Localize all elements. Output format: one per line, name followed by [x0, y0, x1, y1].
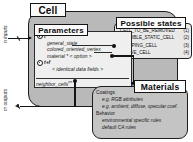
materials-section-heading: Behavior — [95, 110, 187, 117]
neighbor-cells-superscript: nn — [68, 80, 72, 84]
neighbor-cells-connector-horizontal — [20, 106, 75, 108]
cell-title-tab: Cell — [30, 3, 66, 17]
state-index: (4) — [180, 49, 189, 56]
cell-uml-diagram: CELL_TO_BE_REMOVED (1) INVISIBLE_STATIC_… — [0, 0, 193, 142]
input-label: n inputs — [2, 25, 8, 43]
input-connector-arrowhead — [28, 36, 32, 40]
parameter-group-header: t+f — [36, 59, 131, 66]
output-label: m outputs — [2, 89, 8, 111]
materials-item: environmental specific rules — [95, 117, 187, 124]
parameters-title-tab: Parameters — [34, 24, 88, 36]
state-index: (3) — [180, 42, 189, 49]
material-connector-horizontal — [112, 55, 134, 57]
parameter-row: < identical data fields > — [36, 66, 131, 73]
materials-item: default CA rules — [95, 124, 187, 131]
materials-list: Coatings e.g. RGB attributes e.g. ambien… — [95, 89, 187, 131]
materials-item: e.g. ambient, diffuse, specular coef. — [95, 103, 187, 110]
materials-title-tab: Materials — [134, 80, 186, 93]
neighbor-cells-connector-vertical — [74, 81, 76, 107]
group-header-label: t+f — [44, 59, 50, 66]
possible-states-title-tab: Possible states — [116, 17, 186, 29]
parameter-row: colored_oriented_vertex — [36, 46, 131, 53]
neighbor-cells-label: neighbor_cellsnn — [36, 80, 72, 87]
colored-vertex-leader-line — [94, 52, 112, 53]
materials-item: e.g. RGB attributes — [95, 96, 187, 103]
general-state-connector-dot — [112, 44, 116, 48]
parameters-list: t general_state colored_oriented_vertex … — [36, 33, 131, 73]
state-index: (2) — [180, 34, 189, 41]
general-state-leader-line — [72, 45, 112, 46]
circle-bullet-icon — [37, 60, 43, 66]
